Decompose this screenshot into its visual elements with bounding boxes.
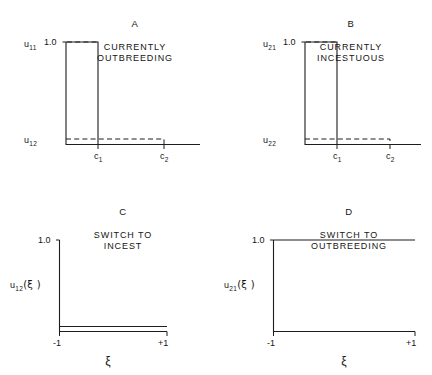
panel-c-xlabel-right: +1 — [158, 338, 168, 348]
panel-a-ylabel-lower: u12 — [24, 135, 37, 147]
panel-b-ylabel-lower: u22 — [263, 135, 276, 147]
panel-d-xaxis-title: ξ — [341, 354, 347, 368]
panel-a-lower-guide — [66, 139, 164, 145]
panel-b-xlabel-c1: c1 — [333, 151, 342, 163]
panel-c: C SWITCH TO INCEST 1.0 u12(ξ ) -1 +1 ξ — [0, 188, 216, 375]
panel-b-xlabel-c2: c2 — [386, 151, 395, 163]
panel-b-axes — [305, 42, 421, 145]
panel-a-axes — [66, 42, 200, 145]
panel-c-xaxis-title: ξ — [105, 354, 111, 368]
panel-d-ylabel-top: 1.0 — [252, 235, 265, 245]
panel-c-ylabel-top: 1.0 — [38, 235, 51, 245]
panel-a: A CURRENTLY OUTBREEDING 1.0 u11 u12 c1 c… — [0, 0, 216, 187]
panel-a-step-curve — [66, 42, 98, 145]
panel-d-axes — [274, 240, 416, 332]
panel-d-xlabel-right: +1 — [406, 338, 416, 348]
panel-a-xlabel-c1: c1 — [94, 151, 103, 163]
panel-c-axes — [60, 240, 168, 332]
panel-b-plot: 1.0 u21 u22 c1 c2 — [216, 0, 432, 187]
panel-a-xlabel-c2: c2 — [160, 151, 169, 163]
panel-d-plot: 1.0 u21(ξ ) -1 +1 ξ — [216, 188, 432, 375]
panel-b-lower-guide — [305, 139, 390, 145]
panel-a-plot: 1.0 u11 u12 c1 c2 — [0, 0, 216, 187]
panel-d-xlabel-left: -1 — [267, 338, 275, 348]
panel-c-xlabel-left: -1 — [53, 338, 61, 348]
panel-a-ylabel-upper: u11 — [24, 39, 37, 51]
panel-b-ylabel-top: 1.0 — [283, 37, 296, 47]
panel-b-step-curve — [305, 42, 337, 145]
panel-b-ylabel-upper: u21 — [263, 39, 276, 51]
panel-a-ylabel-top: 1.0 — [44, 37, 57, 47]
panel-b: B CURRENTLY INCESTUOUS 1.0 u21 u22 c1 c2 — [216, 0, 432, 187]
figure-root: A CURRENTLY OUTBREEDING 1.0 u11 u12 c1 c… — [0, 0, 432, 375]
panel-d: D SWITCH TO OUTBREEDING 1.0 u21(ξ ) -1 +… — [216, 188, 432, 375]
panel-c-plot: 1.0 u12(ξ ) -1 +1 ξ — [0, 188, 216, 375]
panel-c-ylabel-axis: u12(ξ ) — [10, 279, 41, 292]
panel-d-ylabel-axis: u21(ξ ) — [224, 279, 255, 292]
